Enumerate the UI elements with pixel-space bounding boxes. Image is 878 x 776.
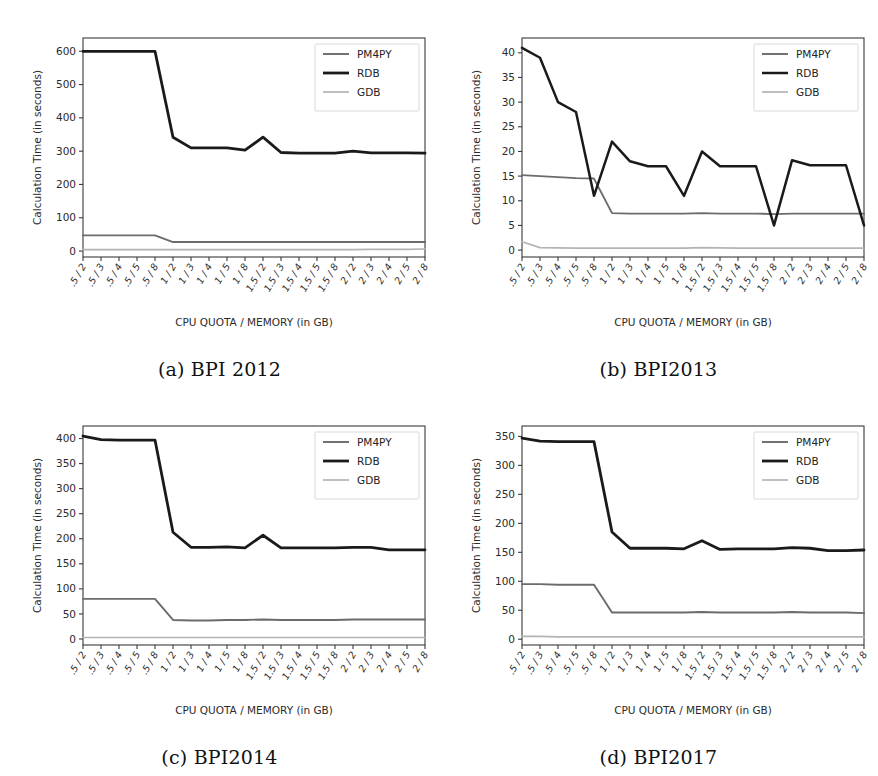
svg-text:1 / 4: 1 / 4: [194, 262, 214, 286]
svg-text:Calculation Time (in seconds): Calculation Time (in seconds): [470, 70, 482, 225]
legend-label-pm4py: PM4PY: [796, 48, 831, 60]
svg-text:.5 / 3: .5 / 3: [523, 650, 545, 677]
svg-text:5: 5: [508, 219, 515, 231]
svg-text:.5 / 8: .5 / 8: [138, 262, 160, 289]
svg-text:CPU QUOTA / MEMORY (in GB): CPU QUOTA / MEMORY (in GB): [175, 316, 333, 328]
svg-text:150: 150: [495, 546, 515, 558]
svg-text:200: 200: [56, 178, 76, 190]
svg-text:2 / 2: 2 / 2: [338, 650, 358, 674]
svg-text:2 / 4: 2 / 4: [374, 262, 394, 286]
svg-text:.5 / 8: .5 / 8: [138, 650, 160, 677]
series-line-pm4py: [522, 175, 864, 214]
svg-text:2 / 3: 2 / 3: [795, 262, 815, 286]
svg-text:.5 / 2: .5 / 2: [505, 650, 527, 677]
svg-text:400: 400: [56, 432, 76, 444]
svg-text:50: 50: [502, 604, 515, 616]
svg-text:2 / 8: 2 / 8: [849, 650, 869, 674]
svg-text:1 / 5: 1 / 5: [651, 262, 671, 286]
svg-text:2 / 3: 2 / 3: [795, 650, 815, 674]
svg-text:50: 50: [63, 608, 76, 620]
svg-text:CPU QUOTA / MEMORY (in GB): CPU QUOTA / MEMORY (in GB): [175, 704, 333, 716]
legend-label-pm4py: PM4PY: [796, 436, 831, 448]
svg-text:100: 100: [56, 211, 76, 223]
svg-text:.5 / 3: .5 / 3: [84, 650, 106, 677]
svg-text:2 / 2: 2 / 2: [777, 262, 797, 286]
svg-text:0: 0: [508, 633, 515, 645]
svg-text:1 / 3: 1 / 3: [176, 650, 196, 674]
chart-bpi2017: 050100150200250300350.5 / 2.5 / 3.5 / 4.…: [439, 388, 878, 728]
svg-text:25: 25: [502, 120, 515, 132]
svg-text:2 / 4: 2 / 4: [813, 650, 833, 674]
svg-text:1 / 2: 1 / 2: [597, 650, 617, 674]
panel-bpi2014: 050100150200250300350400.5 / 2.5 / 3.5 /…: [0, 388, 439, 776]
svg-text:.5 / 2: .5 / 2: [66, 650, 88, 677]
legend-label-gdb: GDB: [796, 474, 819, 486]
plot-area-bpi2012: 0100200300400500600.5 / 2.5 / 3.5 / 4.5 …: [0, 0, 439, 340]
svg-text:350: 350: [56, 457, 76, 469]
series-line-gdb: [522, 636, 864, 637]
svg-text:200: 200: [56, 532, 76, 544]
plot-area-bpi2013: 0510152025303540.5 / 2.5 / 3.5 / 4.5 / 5…: [439, 0, 878, 340]
svg-text:1 / 4: 1 / 4: [633, 650, 653, 674]
svg-text:300: 300: [495, 459, 515, 471]
svg-text:.5 / 5: .5 / 5: [120, 262, 142, 289]
svg-text:600: 600: [56, 45, 76, 57]
svg-text:2 / 8: 2 / 8: [410, 650, 430, 674]
svg-text:0: 0: [69, 245, 76, 257]
legend-label-pm4py: PM4PY: [357, 436, 392, 448]
svg-text:1 / 3: 1 / 3: [615, 650, 635, 674]
svg-text:1 / 4: 1 / 4: [194, 650, 214, 674]
svg-text:.5 / 8: .5 / 8: [577, 262, 599, 289]
svg-text:2 / 5: 2 / 5: [831, 650, 851, 674]
panel-caption-b: (b) BPI2013: [439, 358, 878, 380]
svg-text:300: 300: [56, 482, 76, 494]
panel-bpi2017: 050100150200250300350.5 / 2.5 / 3.5 / 4.…: [439, 388, 878, 776]
svg-text:250: 250: [495, 488, 515, 500]
panel-bpi2013: 0510152025303540.5 / 2.5 / 3.5 / 4.5 / 5…: [439, 0, 878, 388]
legend-label-rdb: RDB: [796, 67, 819, 79]
svg-text:.5 / 4: .5 / 4: [102, 262, 124, 289]
svg-text:20: 20: [502, 145, 515, 157]
chart-bpi2013: 0510152025303540.5 / 2.5 / 3.5 / 4.5 / 5…: [439, 0, 878, 340]
svg-text:10: 10: [502, 194, 515, 206]
svg-text:1 / 3: 1 / 3: [615, 262, 635, 286]
chart-bpi2012: 0100200300400500600.5 / 2.5 / 3.5 / 4.5 …: [0, 0, 439, 340]
svg-text:1 / 2: 1 / 2: [158, 650, 178, 674]
svg-text:.5 / 3: .5 / 3: [84, 262, 106, 289]
legend-label-gdb: GDB: [357, 86, 380, 98]
svg-text:.5 / 4: .5 / 4: [102, 650, 124, 677]
svg-text:100: 100: [56, 582, 76, 594]
svg-text:CPU QUOTA / MEMORY (in GB): CPU QUOTA / MEMORY (in GB): [614, 704, 772, 716]
panel-bpi2012: 0100200300400500600.5 / 2.5 / 3.5 / 4.5 …: [0, 0, 439, 388]
svg-text:250: 250: [56, 507, 76, 519]
svg-text:2 / 3: 2 / 3: [356, 262, 376, 286]
plot-area-bpi2017: 050100150200250300350.5 / 2.5 / 3.5 / 4.…: [439, 388, 878, 728]
svg-text:1 / 4: 1 / 4: [633, 262, 653, 286]
svg-text:2 / 5: 2 / 5: [392, 262, 412, 286]
series-line-pm4py: [83, 599, 425, 621]
svg-text:Calculation Time (in seconds): Calculation Time (in seconds): [31, 70, 43, 225]
svg-text:2 / 2: 2 / 2: [777, 650, 797, 674]
plot-area-bpi2014: 050100150200250300350400.5 / 2.5 / 3.5 /…: [0, 388, 439, 728]
svg-text:CPU QUOTA / MEMORY (in GB): CPU QUOTA / MEMORY (in GB): [614, 316, 772, 328]
svg-text:150: 150: [56, 557, 76, 569]
svg-text:2 / 2: 2 / 2: [338, 262, 358, 286]
svg-text:Calculation Time (in seconds): Calculation Time (in seconds): [470, 458, 482, 613]
svg-text:.5 / 2: .5 / 2: [505, 262, 527, 289]
svg-text:35: 35: [502, 71, 515, 83]
svg-text:15: 15: [502, 170, 515, 182]
svg-text:0: 0: [508, 244, 515, 256]
svg-text:1 / 5: 1 / 5: [651, 650, 671, 674]
svg-text:.5 / 5: .5 / 5: [559, 650, 581, 677]
legend-label-rdb: RDB: [357, 455, 380, 467]
svg-text:1 / 3: 1 / 3: [176, 262, 196, 286]
svg-text:500: 500: [56, 78, 76, 90]
legend-label-gdb: GDB: [357, 474, 380, 486]
svg-text:2 / 3: 2 / 3: [356, 650, 376, 674]
panel-caption-d: (d) BPI2017: [439, 746, 878, 768]
svg-text:2 / 5: 2 / 5: [831, 262, 851, 286]
svg-text:Calculation Time (in seconds): Calculation Time (in seconds): [31, 458, 43, 613]
panel-caption-c: (c) BPI2014: [0, 746, 439, 768]
series-line-gdb: [522, 242, 864, 248]
figure-grid: 0100200300400500600.5 / 2.5 / 3.5 / 4.5 …: [0, 0, 878, 776]
